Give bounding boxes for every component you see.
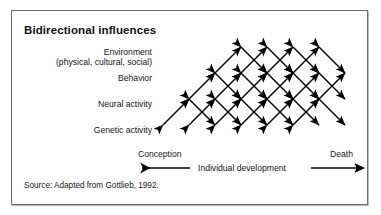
timeline-end-label: Death [330, 149, 353, 159]
conception-arrow-icon [140, 161, 196, 175]
level-label-environment: Environment (physical, cultural, social) [56, 47, 152, 67]
lattice-edges [163, 47, 345, 125]
lattice-svg [143, 35, 359, 147]
death-arrow [309, 161, 365, 175]
level-label-environment-sub: (physical, cultural, social) [56, 57, 152, 67]
timeline-axis-label: Individual development [198, 163, 286, 173]
figure-root: Bidirectional influences Environment (ph… [0, 0, 381, 215]
level-labels-column: Environment (physical, cultural, social)… [12, 11, 152, 206]
conception-arrow [140, 161, 196, 175]
figure-border-box: Bidirectional influences Environment (ph… [11, 10, 368, 205]
timeline-start-label: Conception [138, 149, 181, 159]
bidirectional-lattice-diagram [143, 35, 359, 147]
death-arrow-icon [309, 161, 365, 175]
source-note: Source: Adapted from Gottlieb, 1992. [24, 181, 159, 190]
